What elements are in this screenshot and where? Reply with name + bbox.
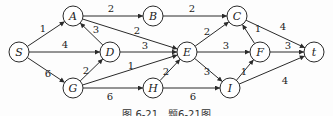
node-I: I (220, 78, 240, 98)
edge-weight-C-t: 4 (280, 21, 286, 32)
node-B: B (143, 6, 163, 26)
edge-weight-S-G: 6 (45, 68, 51, 79)
figure-caption: 图 6-21 题6-21图 (0, 106, 333, 116)
edge-weight-B-C: 2 (189, 3, 195, 14)
edge-weight-G-H: 6 (107, 91, 113, 102)
graph-diagram: 146223321626223311434 SABCDEFtGHI 图 6-21… (0, 0, 333, 116)
edge-weight-D-E: 3 (142, 40, 148, 51)
node-F: F (250, 42, 270, 62)
node-C: C (227, 6, 247, 26)
node-label: C (233, 10, 242, 23)
edge-weight-E-F: 3 (223, 40, 229, 51)
node-S: S (9, 42, 29, 62)
node-label: A (68, 10, 77, 23)
edge-weight-E-I: 3 (204, 66, 210, 77)
edge-weight-S-D: 4 (62, 39, 68, 50)
node-label: D (105, 46, 115, 59)
edge-weight-I-F: 1 (241, 66, 247, 77)
network-graph: 146223321626223311434 SABCDEFtGHI (0, 0, 333, 116)
edge-weight-F-t: 3 (285, 40, 291, 51)
node-H: H (143, 78, 163, 98)
edge-weight-A-B: 2 (108, 3, 114, 14)
node-label: S (15, 46, 23, 59)
edge-weight-I-t: 4 (282, 75, 288, 86)
edge-weight-G-E: 1 (128, 60, 134, 71)
node-label: E (182, 46, 191, 59)
edge-F-C (242, 24, 254, 43)
node-G: G (63, 78, 83, 98)
edge-weight-H-I: 6 (190, 91, 196, 102)
node-D: D (100, 42, 120, 62)
node-label: G (69, 82, 78, 95)
edge-weight-E-C: 2 (204, 26, 210, 37)
node-label: H (147, 82, 158, 95)
edge-I-t (239, 56, 305, 84)
edge-weight-D-A: 3 (93, 24, 99, 35)
node-t: t (304, 42, 324, 62)
edge-weight-A-E: 2 (134, 25, 140, 36)
node-E: E (177, 42, 197, 62)
edge-weight-H-E: 2 (163, 66, 169, 77)
edge-weight-S-A: 1 (40, 23, 46, 34)
edge-weight-G-D: 2 (83, 65, 89, 76)
node-label: t (312, 46, 317, 59)
node-label: B (148, 10, 157, 23)
edge-weight-F-C: 1 (255, 23, 261, 34)
node-label: I (227, 82, 233, 95)
edge-D-A (80, 23, 103, 45)
node-A: A (63, 6, 83, 26)
node-label: F (255, 46, 264, 59)
